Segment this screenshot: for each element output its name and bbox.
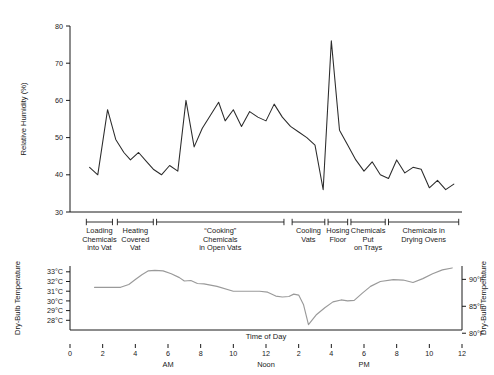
humidity-y-tick-label: 60 [55, 96, 63, 105]
temperature-y-tick-label: 28°C [47, 316, 63, 325]
time-axis-tick-label: 8 [395, 349, 399, 358]
phase-label-line: into Vat [87, 243, 112, 252]
phase-label-line: Drying Ovens [401, 235, 446, 244]
temperature-right-axis-title: Dry-Bulb Temperature [479, 261, 488, 335]
phase-label-line: Floor [329, 235, 346, 244]
time-axis-tick-label: 8 [199, 349, 203, 358]
time-axis-group-label: Noon [257, 360, 275, 369]
phase-label-line: on Trays [354, 243, 383, 252]
humidity-y-tick-label: 80 [55, 22, 63, 31]
temperature-axes [70, 266, 462, 330]
temperature-y-axis-title: Dry-Bulb Temperature [13, 261, 22, 335]
time-axis-tick-label: 4 [329, 349, 333, 358]
time-axis-tick-label: 4 [133, 349, 137, 358]
time-axis-tick-label: 10 [425, 349, 433, 358]
time-axis-tick-label: 6 [166, 349, 170, 358]
time-axis-tick-label: 10 [229, 349, 237, 358]
time-axis-group-label: PM [358, 360, 369, 369]
time-axis-tick-label: 2 [101, 349, 105, 358]
temperature-y-tick-label: 30°C [47, 297, 63, 306]
temperature-y-tick-label: 33°C [47, 267, 63, 276]
phase-label-line: Vats [301, 235, 316, 244]
time-of-day-axis-title: Time of Day [246, 332, 287, 341]
temperature-y-tick-label: 32°C [47, 277, 63, 286]
humidity-y-tick-label: 70 [55, 59, 63, 68]
time-axis-tick-label: 2 [297, 349, 301, 358]
humidity-y-axis-title: Relative Humidity (%) [19, 82, 28, 155]
humidity-line-series [90, 41, 454, 190]
figure-root: 304050607080Relative Humidity (%)Loading… [0, 0, 494, 375]
temperature-line-series [95, 268, 453, 325]
temperature-y-tick-label: 29°C [47, 306, 63, 315]
time-axis-tick-label: 12 [262, 349, 270, 358]
combined-process-chart: 304050607080Relative Humidity (%)Loading… [0, 0, 494, 375]
time-axis-tick-label: 0 [68, 349, 72, 358]
temperature-y-tick-label: 31°C [47, 287, 63, 296]
humidity-y-tick-label: 50 [55, 133, 63, 142]
phase-label-line: in Open Vats [199, 243, 241, 252]
time-axis-tick-label: 12 [458, 349, 466, 358]
time-axis-group-label: AM [162, 360, 173, 369]
phase-label-line: Vat [130, 243, 141, 252]
humidity-y-tick-label: 40 [55, 170, 63, 179]
humidity-y-tick-label: 30 [55, 208, 63, 217]
time-axis-tick-label: 6 [362, 349, 366, 358]
